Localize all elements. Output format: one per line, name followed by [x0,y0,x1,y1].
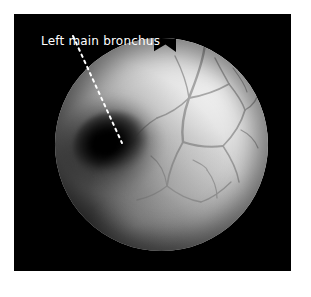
endoscopy-image-panel: Left main bronchus [14,14,291,271]
field-vignette [55,38,268,251]
endoscope-circular-field [55,38,268,251]
figure-root: Left main bronchus [0,0,311,297]
annotation-label-left-main-bronchus: Left main bronchus [41,34,160,48]
